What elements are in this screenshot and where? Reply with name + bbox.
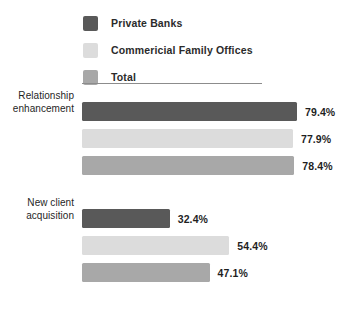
bar-row: 79.4% bbox=[82, 102, 347, 121]
bar bbox=[82, 209, 170, 228]
legend-label: Total bbox=[111, 71, 136, 83]
bar-row: 77.9% bbox=[82, 129, 347, 148]
legend-item-private-banks: Private Banks bbox=[83, 12, 323, 34]
bar-value-label: 79.4% bbox=[305, 106, 335, 118]
bar-list: 79.4% 77.9% 78.4% bbox=[82, 102, 347, 175]
bar-list: 32.4% 54.4% 47.1% bbox=[82, 209, 347, 282]
category-label-line2: acquisition bbox=[0, 209, 74, 222]
bar-chart: Private Banks Commericial Family Offices… bbox=[0, 0, 347, 309]
legend-item-commercial-family-offices: Commericial Family Offices bbox=[83, 39, 323, 61]
bar-row: 47.1% bbox=[82, 263, 347, 282]
bar-value-label: 32.4% bbox=[178, 213, 208, 225]
category-label-line2: enhancement bbox=[0, 102, 74, 115]
bar bbox=[82, 236, 229, 255]
bar-value-label: 54.4% bbox=[237, 240, 267, 252]
bar-row: 78.4% bbox=[82, 156, 347, 175]
legend-divider bbox=[82, 83, 262, 84]
bar-row: 54.4% bbox=[82, 236, 347, 255]
category-label: New client acquisition bbox=[0, 197, 74, 222]
legend-label: Private Banks bbox=[111, 17, 182, 29]
bar bbox=[82, 263, 210, 282]
chart-legend: Private Banks Commericial Family Offices… bbox=[83, 12, 323, 93]
bar-row: 32.4% bbox=[82, 209, 347, 228]
bar-value-label: 47.1% bbox=[218, 267, 248, 279]
bar-value-label: 78.4% bbox=[302, 160, 332, 172]
category-label-line1: New client bbox=[0, 197, 74, 210]
legend-item-total: Total bbox=[83, 66, 323, 88]
legend-swatch-icon bbox=[83, 16, 98, 31]
bar bbox=[82, 129, 293, 148]
legend-swatch-icon bbox=[83, 43, 98, 58]
category-label: Relationship enhancement bbox=[0, 90, 74, 115]
bar-value-label: 77.9% bbox=[301, 133, 331, 145]
bar bbox=[82, 156, 294, 175]
legend-label: Commericial Family Offices bbox=[111, 44, 253, 56]
bar bbox=[82, 102, 297, 121]
category-label-line1: Relationship bbox=[0, 90, 74, 103]
